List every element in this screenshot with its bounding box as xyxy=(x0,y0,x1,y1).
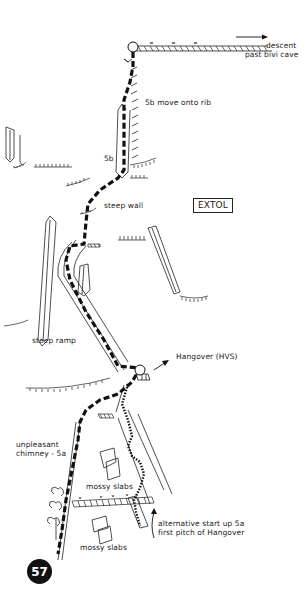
descent-line-1: descent xyxy=(259,41,299,50)
belay-circle-icon xyxy=(135,365,145,375)
steep-ramp-label: steep ramp xyxy=(32,336,76,345)
crux-grade-label: 5b xyxy=(104,154,114,163)
route-number-badge: 57 xyxy=(27,559,52,584)
alt-start-arrow-icon xyxy=(151,508,157,538)
mossy-slabs-upper-label: mossy slabs xyxy=(86,482,133,491)
alt-start-line-2: first pitch of Hangover xyxy=(158,528,244,537)
tree-icon xyxy=(47,487,63,540)
descent-arrow-icon xyxy=(236,35,268,40)
move-onto-rib-label: 5b move onto rib xyxy=(145,98,211,107)
chimney-label: unpleasant chimney - 5a xyxy=(16,440,66,458)
overhangs-middle xyxy=(4,236,208,392)
grass-tuft-icon xyxy=(150,42,197,44)
mossy-slabs-lower-label: mossy slabs xyxy=(80,543,127,552)
lower-ledges xyxy=(72,414,154,507)
alt-start-label: alternative start up 5a first pitch of H… xyxy=(158,519,244,537)
chimney-line-2: chimney - 5a xyxy=(16,449,66,458)
belay-circle-icon xyxy=(128,42,138,52)
left-upper-flakes xyxy=(6,127,22,165)
descent-label: descent past bivi cave xyxy=(259,41,299,59)
crag-label-box: EXTOL xyxy=(193,198,233,213)
steep-wall-label: steep wall xyxy=(104,201,143,210)
chimney-line-1: unpleasant xyxy=(16,440,66,449)
descent-line-2: past bivi cave xyxy=(245,50,299,59)
hangover-label: Hangover (HVS) xyxy=(176,352,238,361)
alt-start-line-1: alternative start up 5a xyxy=(158,519,244,528)
mossy-slab-icons xyxy=(92,448,120,544)
topo-diagram xyxy=(0,0,307,593)
upper-rib xyxy=(116,59,138,178)
main-route-line xyxy=(58,52,140,554)
hangover-arrow-icon xyxy=(154,360,169,370)
